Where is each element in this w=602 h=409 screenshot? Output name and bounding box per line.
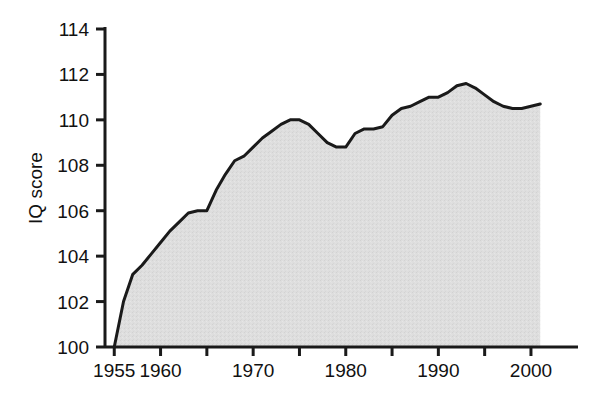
x-axis-tick-label: 1970 [232,360,274,381]
y-axis-tick-label: 108 [57,155,89,176]
x-axis-tick-label: 1960 [139,360,181,381]
y-axis-tick-label: 106 [57,201,89,222]
x-axis-tick-label: 1955 [93,360,135,381]
x-axis-tick-label: 2000 [510,360,552,381]
x-axis: 195519601970198019902000 [93,347,578,381]
y-axis-tick-label: 114 [59,19,90,40]
iq-score-chart-figure: 100102104106108110112114 195519601970198… [0,0,602,409]
area-fill [114,84,540,347]
plot-area [114,84,540,347]
x-axis-tick-label: 1990 [417,360,459,381]
y-axis: 100102104106108110112114 [57,19,105,358]
y-axis-tick-label: 100 [57,337,89,358]
y-axis-tick-label: 102 [57,292,89,313]
x-axis-tick-label: 1980 [325,360,367,381]
chart-canvas: 100102104106108110112114 195519601970198… [0,0,602,409]
y-axis-title: IQ score [25,152,46,224]
y-axis-tick-label: 104 [57,246,89,267]
y-axis-tick-label: 112 [59,64,89,85]
y-axis-tick-label: 110 [59,110,89,131]
